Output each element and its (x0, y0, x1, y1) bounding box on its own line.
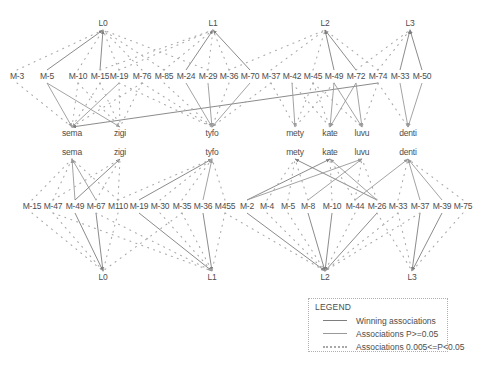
edge-tM5-n1sema (47, 83, 72, 127)
node-label-bM19: M-19 (130, 201, 149, 211)
node-label-tM10: M-10 (69, 71, 88, 81)
edge-bM26-n2mety (295, 159, 377, 200)
edge-bM67-bL0 (96, 213, 103, 271)
node-label-bM30: M-30 (151, 201, 170, 211)
node-label-tM76: M-76 (133, 71, 152, 81)
node-label-bM36: M-36 (194, 201, 213, 211)
node-label-tM37: M-37 (262, 71, 281, 81)
edge-bM49-n2sema (72, 159, 75, 200)
node-label-n1mety: mety (286, 128, 305, 138)
node-label-tM5: M-5 (40, 71, 55, 81)
edge-tM74-n1luvu (362, 83, 378, 127)
edge-bM8-n2mety (295, 159, 308, 200)
node-label-bM35: M-35 (173, 201, 192, 211)
edge-tM36-tL1 (213, 30, 229, 70)
node-label-bM37: M-37 (411, 201, 430, 211)
node-label-bM67: M-67 (87, 201, 106, 211)
legend-item-p05: Associations P>=0.05 (315, 327, 447, 340)
legend-item-label: Winning associations (356, 316, 436, 326)
node-label-tM49: M-49 (325, 71, 344, 81)
edge-bM19-bL1 (139, 213, 212, 271)
node-label-tM72: M-72 (347, 71, 366, 81)
node-label-n1denti: denti (399, 128, 417, 138)
node-label-tM3: M-3 (10, 71, 25, 81)
node-label-bM455: M455 (215, 201, 236, 211)
edge-tM3-n1sema (17, 83, 72, 127)
winning-line-swatch (323, 320, 347, 321)
edge-bM37-n2denti (408, 159, 420, 200)
node-label-tM19: M-19 (110, 71, 129, 81)
edge-tM10-tL0 (78, 30, 103, 70)
node-label-bM2: M-2 (240, 201, 255, 211)
node-label-tM36: M-36 (220, 71, 239, 81)
node-label-bL1: L1 (207, 272, 217, 282)
edge-tM29-tL0 (103, 30, 208, 70)
edge-bM10-bL2 (325, 213, 332, 271)
edge-bM67-n2zigi (96, 159, 120, 200)
p05-line-swatch (323, 333, 347, 334)
node-label-tM15: M-15 (91, 71, 110, 81)
node-label-bM26: M-26 (368, 201, 387, 211)
edge-bM49-bL0 (75, 213, 103, 271)
node-label-tL2: L2 (320, 18, 330, 28)
node-label-tM24: M-24 (177, 71, 196, 81)
edge-bM26-bL2 (325, 213, 377, 271)
node-label-n2luvu: luvu (355, 147, 370, 157)
edge-bM5-bL2 (288, 213, 325, 271)
node-label-bM49: M-49 (66, 201, 85, 211)
edge-tM85-n1tyfo (164, 83, 212, 127)
edge-tM19-tL1 (119, 30, 213, 70)
edge-bM47-n2sema (53, 159, 72, 200)
edge-bM44-n2luvu (355, 159, 362, 200)
edge-tM70-n1tyfo (212, 83, 250, 127)
edge-bM10-n2kate (330, 159, 332, 200)
edge-tM19-n1sema (72, 83, 119, 127)
edge-tM37-tL2 (271, 30, 325, 70)
edge-bM26-bL3 (377, 213, 412, 271)
node-label-bM33: M-33 (389, 201, 408, 211)
legend-item-winning: Winning associations (315, 314, 447, 327)
node-label-bL2: L2 (320, 272, 330, 282)
legend-box: LEGEND Winning associations Associations… (308, 298, 448, 352)
edge-tM50-n1denti (408, 83, 422, 127)
edge-tM33-n1denti (400, 83, 408, 127)
edge-tM19-tL0 (103, 30, 119, 70)
edge-tM45-tL2 (313, 30, 325, 70)
edge-bM19-n2tyfo (139, 159, 212, 200)
node-label-n1tyfo: tyfo (206, 128, 219, 138)
association-diagram-page: L0L1L2L3M-3M-5M-10M-15M-19M-76M-85M-24M-… (0, 0, 495, 374)
edge-tM45-n1kate (313, 83, 330, 127)
edge-tM36-tL2 (229, 30, 325, 70)
edge-bM33-bL3 (398, 213, 412, 271)
node-label-bM39: M-39 (433, 201, 452, 211)
edge-tM19-n1tyfo (119, 83, 212, 127)
node-label-bM10: M-10 (323, 201, 342, 211)
legend-item-dotted: Associations 0.005<=P<0.05 (315, 340, 447, 353)
node-label-bM15: M-15 (23, 201, 42, 211)
edge-bM44-n2kate (330, 159, 355, 200)
node-label-n2tyfo: tyfo (206, 147, 219, 157)
node-label-n1sema: sema (62, 128, 82, 138)
node-label-bM110: M110 (108, 201, 128, 211)
edge-bM110-n2zigi (118, 159, 120, 200)
node-label-n2kate: kate (322, 147, 338, 157)
node-label-bL3: L3 (407, 272, 417, 282)
edge-tM15-tL1 (100, 30, 213, 70)
legend-title: LEGEND (315, 302, 447, 312)
edge-bM110-n2tyfo (118, 159, 212, 200)
edge-tM45-n1mety (295, 83, 313, 127)
edge-tM37-n1tyfo (212, 83, 271, 127)
node-label-tL1: L1 (208, 18, 218, 28)
node-label-tM42: M-42 (283, 71, 302, 81)
edge-bM33-bL2 (325, 213, 398, 271)
edge-bM2-n2kate (247, 159, 330, 200)
node-label-bM8: M-8 (301, 201, 316, 211)
edge-bM39-n2denti (408, 159, 442, 200)
node-label-n1luvu: luvu (355, 128, 370, 138)
edge-tM42-n1mety (292, 83, 295, 127)
edge-bM36-bL1 (203, 213, 212, 271)
edge-bM455-bL1 (212, 213, 225, 271)
node-label-bL0: L0 (98, 272, 108, 282)
edge-bM455-bL2 (225, 213, 325, 271)
edge-bM2-bL2 (247, 213, 325, 271)
